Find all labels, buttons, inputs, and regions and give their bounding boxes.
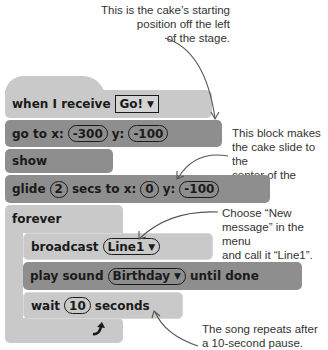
arrow-new-message (140, 212, 218, 238)
arrow-start-position (165, 38, 215, 118)
arrow-song-repeat (155, 312, 198, 346)
arrow-slide-center (178, 155, 228, 178)
